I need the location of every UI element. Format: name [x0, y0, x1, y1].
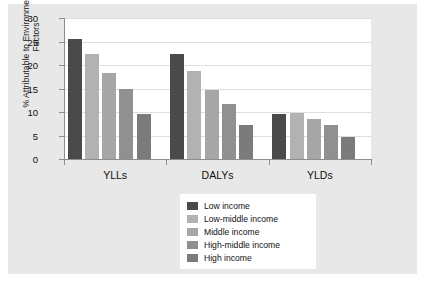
bar: [239, 125, 253, 159]
chart-panel: % Attributable to Environmental Risk Fac…: [8, 4, 417, 274]
legend-swatch-icon: [187, 228, 198, 236]
gridline: [64, 65, 371, 66]
legend-label: Low income: [204, 201, 250, 211]
y-tick-mark: [59, 112, 64, 113]
x-axis-line: [64, 159, 372, 160]
bar: [85, 54, 99, 159]
chart-legend: Low incomeLow-middle incomeMiddle income…: [180, 194, 316, 269]
x-tick-label: DALYs: [173, 169, 263, 181]
legend-label: Middle income: [204, 227, 259, 237]
bar: [324, 125, 338, 159]
bar: [341, 137, 355, 159]
legend-label: High-middle income: [204, 240, 280, 250]
gridline: [64, 18, 371, 19]
bar: [102, 73, 116, 159]
bar: [119, 89, 133, 159]
bar: [307, 119, 321, 159]
bar: [137, 114, 151, 159]
legend-swatch-icon: [187, 202, 198, 210]
legend-swatch-icon: [187, 254, 198, 262]
y-tick-mark: [59, 65, 64, 66]
legend-item: High-middle income: [187, 238, 310, 251]
y-tick-label: 20: [14, 60, 38, 71]
bar: [272, 114, 286, 159]
bar: [290, 113, 304, 159]
x-tick-mark: [64, 160, 65, 165]
y-tick-label: 25: [14, 36, 38, 47]
y-tick-label: 30: [14, 13, 38, 24]
legend-label: Low-middle income: [204, 214, 278, 224]
gridline: [64, 42, 371, 43]
x-tick-label: YLLs: [70, 169, 160, 181]
y-tick-mark: [59, 89, 64, 90]
legend-item: Low income: [187, 199, 310, 212]
y-tick-mark: [59, 18, 64, 19]
x-tick-mark: [269, 160, 270, 165]
x-tick-mark: [166, 160, 167, 165]
y-tick-label: 15: [14, 83, 38, 94]
legend-item: Middle income: [187, 225, 310, 238]
legend-item: Low-middle income: [187, 212, 310, 225]
plot-area: [64, 18, 371, 159]
bar: [68, 39, 82, 159]
bar: [170, 54, 184, 159]
bar: [187, 71, 201, 159]
bar: [205, 90, 219, 159]
legend-swatch-icon: [187, 215, 198, 223]
bar: [222, 104, 236, 159]
legend-item: High income: [187, 251, 310, 264]
y-tick-mark: [59, 42, 64, 43]
y-axis-line: [64, 18, 65, 160]
y-tick-label: 5: [14, 130, 38, 141]
legend-label: High income: [204, 253, 252, 263]
y-tick-mark: [59, 136, 64, 137]
chart-figure: % Attributable to Environmental Risk Fac…: [0, 0, 425, 289]
legend-swatch-icon: [187, 241, 198, 249]
y-tick-label: 10: [14, 107, 38, 118]
x-tick-label: YLDs: [275, 169, 365, 181]
y-tick-label: 0: [14, 154, 38, 165]
x-tick-mark: [371, 160, 372, 165]
